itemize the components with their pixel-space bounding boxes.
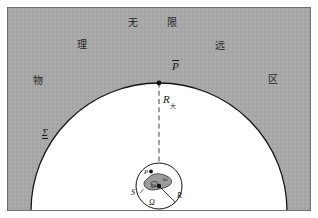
label-s-surface: S xyxy=(131,189,135,197)
label-p-tilde: P xyxy=(172,61,179,72)
label-sigma: Σ xyxy=(42,128,48,138)
label-li: 理 xyxy=(77,40,87,50)
label-omega-small: ω xyxy=(163,176,168,183)
label-qu: 区 xyxy=(268,75,278,85)
diagram-canvas xyxy=(0,0,318,218)
label-wu: 无 xyxy=(128,18,138,28)
figure-container: 无 限 理 远 物 区 Σ P R大 R S Ω ω O P xyxy=(0,0,318,218)
label-r-big-subscript: 大 xyxy=(170,102,176,109)
label-r-big-base: R xyxy=(163,93,170,105)
label-r-big: R大 xyxy=(163,94,176,107)
label-xian: 限 xyxy=(167,18,177,28)
point-o-center xyxy=(157,184,161,188)
label-yuan: 远 xyxy=(215,41,225,51)
label-r-small: R xyxy=(177,192,182,200)
label-omega-cap: Ω xyxy=(149,199,155,207)
point-p-interior xyxy=(149,170,153,174)
label-origin: O xyxy=(151,183,156,190)
point-p-tilde xyxy=(157,81,162,86)
label-wu-matter: 物 xyxy=(33,76,43,86)
label-p-point: P xyxy=(144,169,148,176)
